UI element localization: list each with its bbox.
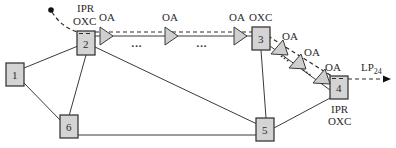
node-2: 2 IPR OXC <box>73 2 96 55</box>
network-diagram: OA OA OA OA OA OA ··· ··· ··· ··· 1 2 IP… <box>0 0 396 148</box>
node-type-label: IPR <box>77 2 95 14</box>
svg-text:LP24: LP24 <box>361 61 382 76</box>
node-1: 1 <box>6 63 24 86</box>
lightpath-source-dot <box>48 7 54 13</box>
amplifier-triangle-icon <box>165 27 178 45</box>
link-1-2 <box>24 46 78 68</box>
link-3-5 <box>261 50 266 118</box>
node-5: 5 <box>256 118 274 141</box>
node-6: 6 <box>60 115 78 138</box>
lp-subscript: 24 <box>374 67 382 76</box>
lp-label: LP <box>361 61 374 73</box>
link-2-6 <box>69 55 86 116</box>
amplifier-triangle-icon <box>234 27 247 45</box>
ellipsis: ··· <box>196 40 207 52</box>
link-1-6 <box>23 82 61 121</box>
lightpath-label: LP24 <box>361 61 382 76</box>
amplifier-label: OA <box>325 61 341 73</box>
link-5-4 <box>274 97 332 128</box>
node-label: 1 <box>12 69 18 81</box>
node-label: 2 <box>83 38 89 50</box>
ellipsis: ··· <box>131 40 142 52</box>
node-label: 6 <box>66 121 72 133</box>
node-4: 4 IPR OXC <box>328 76 351 127</box>
node-label: 3 <box>258 33 264 45</box>
arrowhead-icon <box>383 76 391 83</box>
node-type-label: OXC <box>328 115 351 127</box>
node-label: 4 <box>336 82 342 94</box>
amplifier-label: OA <box>229 11 245 23</box>
node-type-label: OXC <box>249 11 272 23</box>
amplifier-label: OA <box>282 30 298 42</box>
node-label: 5 <box>262 124 268 136</box>
node-type-label: OXC <box>73 15 96 27</box>
amplifier-triangle-icon <box>100 27 113 45</box>
node-type-label: IPR <box>331 103 349 115</box>
link-2-5 <box>95 47 257 124</box>
amplifier-label: OA <box>162 11 178 23</box>
amplifier-label: OA <box>99 11 115 23</box>
optical-amplifiers: OA OA OA OA OA OA ··· ··· ··· ··· <box>99 11 341 84</box>
node-3: 3 OXC <box>249 11 272 50</box>
amplifier-label: OA <box>304 46 320 58</box>
